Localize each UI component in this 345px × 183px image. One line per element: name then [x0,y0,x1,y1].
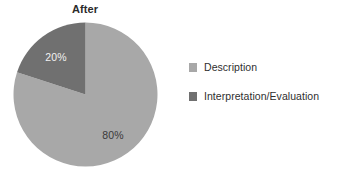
pie-svg [13,22,158,167]
legend-item-interpretation: Interpretation/Evaluation [189,89,341,103]
chart-title: After [0,3,170,15]
pie-chart-figure: After 20% 80% Description Interpretation… [0,0,345,183]
slice-label-interpretation: 20% [38,51,74,63]
legend-item-description: Description [189,60,341,74]
legend-swatch-description-icon [189,63,197,72]
chart-legend: Description Interpretation/Evaluation [189,60,341,118]
pie-graphic [13,22,158,167]
slice-label-description: 80% [95,129,131,141]
legend-label-interpretation: Interpretation/Evaluation [204,90,319,102]
legend-swatch-interpretation-icon [189,92,197,101]
legend-label-description: Description [204,61,257,73]
